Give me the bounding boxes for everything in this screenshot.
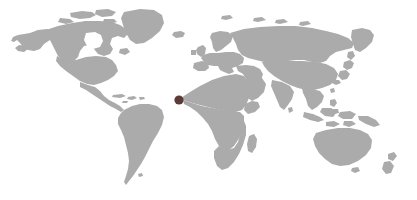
world-map-canvas	[0, 0, 417, 200]
location-marker	[174, 95, 183, 104]
world-map-figure	[0, 0, 417, 200]
